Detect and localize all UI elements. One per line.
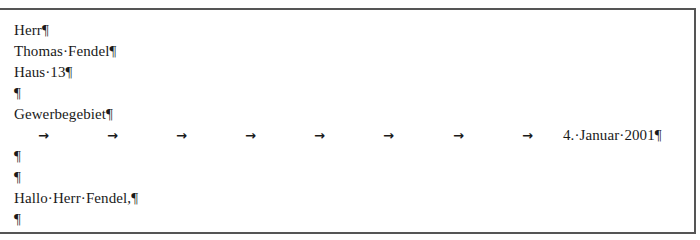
date-line: → → → → → → → → 4.·Januar·2001¶ <box>14 125 694 146</box>
document-page[interactable]: Herr¶ Thomas·Fendel¶ Haus·13¶ ¶ Gewerbeg… <box>0 8 696 234</box>
text-line-empty: ¶ <box>14 83 694 104</box>
text-line-address: Haus·13¶ <box>14 62 694 83</box>
text-line-empty: ¶ <box>14 146 694 167</box>
text-line-empty: ¶ <box>14 209 694 230</box>
document-body[interactable]: Herr¶ Thomas·Fendel¶ Haus·13¶ ¶ Gewerbeg… <box>14 20 694 230</box>
tab-arrow-icon: → <box>383 125 394 146</box>
date-text: 4.·Januar·2001¶ <box>563 125 662 146</box>
text-line-salutation: Herr¶ <box>14 20 694 41</box>
tab-arrow-icon: → <box>176 125 187 146</box>
tab-arrow-icon: → <box>314 125 325 146</box>
text-line-empty: ¶ <box>14 167 694 188</box>
tab-arrow-icon: → <box>453 125 464 146</box>
tab-arrow-icon: → <box>522 125 533 146</box>
text-line-area: Gewerbegebiet¶ <box>14 104 694 125</box>
tab-arrow-icon: → <box>38 125 49 146</box>
tab-arrow-icon: → <box>245 125 256 146</box>
tab-arrow-icon: → <box>107 125 118 146</box>
text-line-greeting: Hallo·Herr·Fendel,¶ <box>14 188 694 209</box>
text-line-name: Thomas·Fendel¶ <box>14 41 694 62</box>
